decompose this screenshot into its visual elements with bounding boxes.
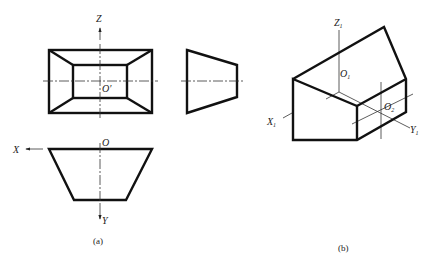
o2-horizontal-axis xyxy=(352,94,413,124)
side-view-trapezoid xyxy=(187,50,237,113)
o1-label: O1 xyxy=(340,68,350,80)
origin-label-o-prime: O′ xyxy=(102,83,112,94)
x-axis-label: X xyxy=(12,144,20,155)
technical-drawing: Z O′ X Y O (a) Z1 X1 Y1 O1 O2 (b) xyxy=(0,0,425,263)
side-view xyxy=(181,50,243,113)
y1-label: Y1 xyxy=(410,124,419,136)
caption-a: (a) xyxy=(93,236,103,246)
caption-b: (b) xyxy=(338,243,349,253)
o2-label: O2 xyxy=(384,101,394,113)
top-view: X Y O xyxy=(12,137,152,226)
z1-label: Z1 xyxy=(334,17,343,29)
x1-axis-outer xyxy=(283,113,292,118)
isometric-view: Z1 X1 Y1 O1 O2 xyxy=(266,17,419,140)
isometric-outline xyxy=(293,27,406,140)
y-axis-label: Y xyxy=(102,215,109,226)
z-axis-label: Z xyxy=(96,13,102,24)
origin-label-o: O xyxy=(102,137,109,148)
x1-label: X1 xyxy=(266,116,276,128)
top-view-trapezoid xyxy=(49,149,152,200)
front-view: Z O′ xyxy=(43,13,158,118)
